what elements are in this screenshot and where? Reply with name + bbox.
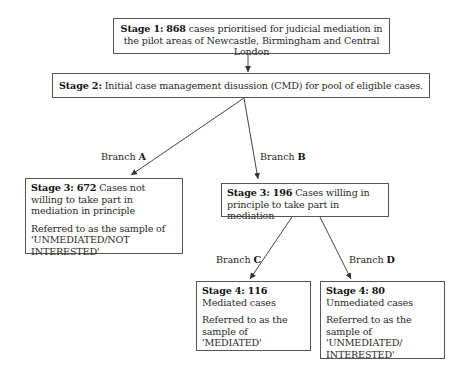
stage4-left-label: Stage 4: (202, 285, 245, 296)
stage4-right-text: Unmediated cases (326, 297, 413, 308)
arrow-branch-a (131, 98, 244, 175)
arrow-branch-b (244, 98, 258, 179)
stage2-text: Initial case management disussion (CMD) … (102, 80, 423, 91)
stage4-right-box: Stage 4: 80 Unmediated cases Referred to… (320, 281, 445, 359)
stage4-right-count: 80 (372, 285, 385, 296)
branch-c-label: Branch C (216, 254, 261, 265)
stage3-left-count: 672 (77, 182, 97, 193)
stage4-left-note: Referred to as the sample of 'MEDIATED' (202, 314, 305, 349)
stage3-right-label: Stage 3: (227, 187, 270, 198)
branch-a-label: Branch A (101, 151, 146, 162)
stage1-label: Stage 1: (121, 23, 164, 34)
branch-b-label: Branch B (260, 151, 305, 162)
stage4-right-note: Referred to as the sample of 'UNMEDIATED… (326, 314, 439, 360)
stage2-label: Stage 2: (59, 80, 102, 91)
stage4-right-label: Stage 4: (326, 285, 369, 296)
stage4-left-box: Stage 4: 116 Mediated cases Referred to … (196, 281, 311, 351)
arrow-branch-d (320, 217, 351, 279)
arrow-branch-c (250, 217, 292, 279)
branch-d-label: Branch D (349, 254, 395, 265)
stage1-box: Stage 1: 868 cases prioritised for judic… (113, 18, 390, 54)
stage1-text: cases prioritised for judicial mediation… (124, 23, 383, 57)
stage3-left-box: Stage 3: 672 Cases not willing to take p… (25, 178, 183, 254)
stage3-left-note: Referred to as the sample of 'UNMEDIATED… (31, 223, 177, 258)
stage3-right-count: 196 (273, 187, 293, 198)
stage1-count: 868 (166, 23, 186, 34)
stage4-left-count: 116 (248, 285, 268, 296)
stage2-box: Stage 2: Initial case management disussi… (52, 73, 430, 98)
stage3-right-box: Stage 3: 196 Cases willing in principle … (221, 183, 389, 217)
stage4-left-text: Mediated cases (202, 297, 276, 308)
stage3-left-label: Stage 3: (31, 182, 74, 193)
